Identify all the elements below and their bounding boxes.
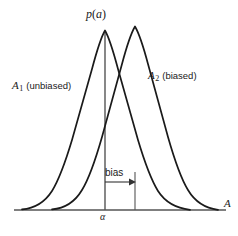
pdf-paren-close: )	[102, 7, 106, 21]
figure-container: p(a) A1(unbiased) A2(biased) bias α A	[0, 0, 238, 236]
x-axis-label: A	[224, 198, 231, 209]
curve2-qualifier: (biased)	[159, 70, 196, 81]
curve-label-unbiased: A1(unbiased)	[12, 80, 71, 93]
alpha-tick-label: α	[100, 212, 105, 222]
curve1-symbol: A	[12, 79, 19, 91]
curve2-symbol: A	[148, 69, 155, 81]
curve1-qualifier: (unbiased)	[23, 80, 71, 91]
bias-illustration-chart	[0, 0, 238, 236]
bias-annotation-label: bias	[105, 168, 123, 178]
y-axis-label: p(a)	[86, 8, 106, 20]
curve-label-biased: A2(biased)	[148, 70, 197, 83]
